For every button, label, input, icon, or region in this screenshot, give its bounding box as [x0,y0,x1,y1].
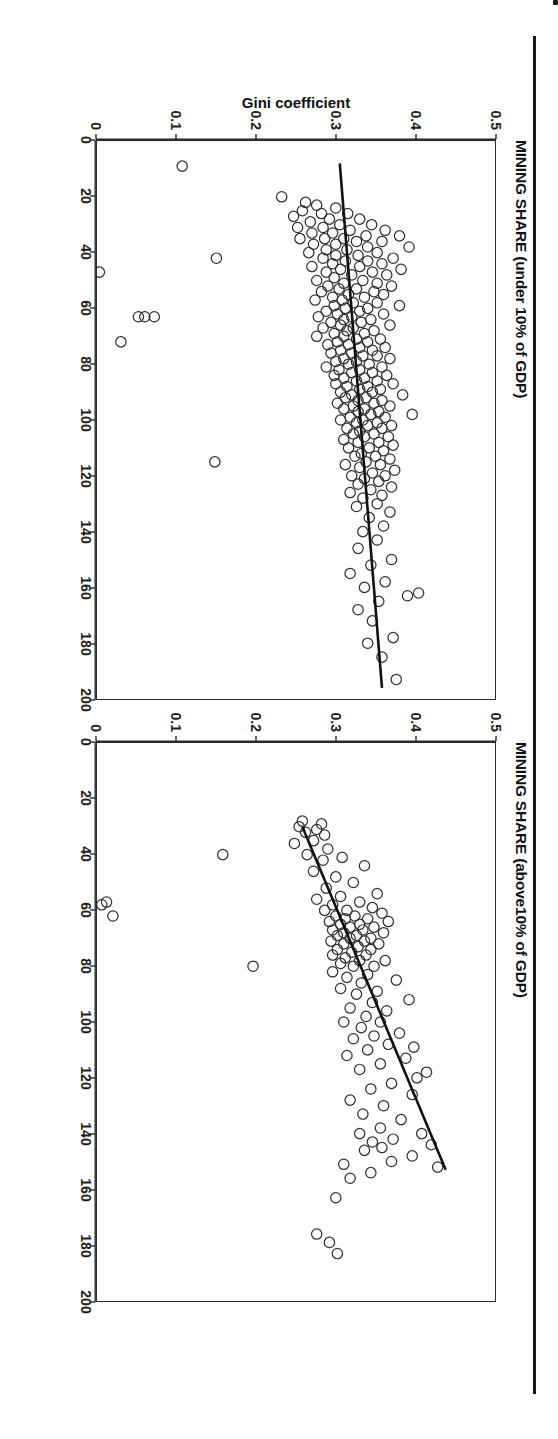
data-point [318,222,328,232]
y-tick-label: 0.4 [408,713,424,733]
data-point [345,1173,355,1183]
data-point [342,1050,352,1060]
data-point [108,911,118,921]
data-point [339,939,349,949]
x-tick-label: 200 [78,1290,94,1314]
data-point [396,264,406,274]
data-point [386,420,396,430]
data-point [218,849,228,859]
x-tick-label: 180 [78,632,94,656]
data-point [335,983,345,993]
data-point [417,1128,427,1138]
data-point [276,192,286,202]
data-point [385,454,395,464]
data-point [210,457,220,467]
y-tick-label: 0.5 [488,111,504,131]
data-point [332,1248,342,1258]
data-point [342,423,352,433]
page-gutter-rule [533,36,536,1394]
data-point [386,482,396,492]
panel-mining-share-under-10: MINING SHARE (under 10% of GDP) 02040608… [96,140,496,700]
data-point [323,281,333,291]
data-point [385,353,395,363]
data-point [359,1145,369,1155]
data-point [412,1073,422,1083]
y-tick-label: 0.1 [168,713,184,733]
data-point [345,1095,355,1105]
data-point [348,961,358,971]
panel-mining-share-above-10: MINING SHARE (above10% of GDP) 020406080… [96,742,496,1302]
data-point [402,591,412,601]
x-tick-label: 60 [78,300,94,316]
data-point [394,231,404,241]
data-point [378,928,388,938]
data-point [366,220,376,230]
data-point [140,312,150,322]
data-point [404,242,414,252]
data-point [367,267,377,277]
data-point [211,253,221,263]
data-point [321,362,331,372]
y-tick-label: 0.2 [248,713,264,733]
data-point [351,989,361,999]
data-point [362,242,372,252]
data-point [331,239,341,249]
x-tick-label: 180 [78,1234,94,1258]
data-point [388,379,398,389]
x-tick-label: 0 [78,738,94,746]
data-point [372,499,382,509]
x-tick-label: 20 [78,188,94,204]
y-tick-label: 0.3 [328,713,344,733]
data-point [310,295,320,305]
data-point [348,877,358,887]
data-point [319,905,329,915]
data-point [324,1237,334,1247]
data-point [331,1193,341,1203]
data-point [307,228,317,238]
x-tick-label: 140 [78,520,94,544]
data-point [312,275,322,285]
data-point [319,233,329,243]
x-tick-label: 80 [78,958,94,974]
data-point [374,476,384,486]
data-point [362,1045,372,1055]
data-point [318,855,328,865]
data-point [385,507,395,517]
data-point [359,582,369,592]
data-point [312,1229,322,1239]
data-point [380,577,390,587]
x-tick-label: 40 [78,244,94,260]
data-point [319,830,329,840]
data-point [386,1156,396,1166]
data-point [312,331,322,341]
data-point [345,1003,355,1013]
data-point [404,994,414,1004]
data-point [391,674,401,684]
data-point [366,1084,376,1094]
data-point [292,222,302,232]
data-point [382,270,392,280]
data-point [378,1101,388,1111]
data-point [386,554,396,564]
data-point [383,916,393,926]
x-tick-label: 0 [78,136,94,144]
data-point [327,967,337,977]
figure-page: MINING SHARE (under 10% of GDP) 02040608… [0,0,558,1439]
data-point [388,253,398,263]
data-point [351,501,361,511]
data-point [335,891,345,901]
y-axis-right: 00.10.20.30.40.5 [96,696,496,742]
data-point [367,902,377,912]
data-point [369,922,379,932]
y-axis-title: Gini coefficient [242,94,350,111]
data-point [304,247,314,257]
data-point [337,852,347,862]
data-point [340,459,350,469]
data-point [377,236,387,246]
data-point [391,975,401,985]
data-point [378,309,388,319]
x-tick-label: 120 [78,464,94,488]
y-tick-label: 0 [88,122,104,130]
data-point [359,861,369,871]
y-tick-label: 0.4 [408,111,424,131]
